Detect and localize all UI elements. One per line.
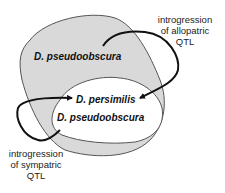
allopatric-annotation-line1: introgression (150, 14, 220, 25)
allopatric-annotation: introgression of allopatric QTL (150, 14, 220, 47)
sympatric-pseudoobscura-label: D. pseudoobscura (57, 112, 144, 123)
sympatric-annotation: introgression of sympatric QTL (5, 148, 67, 181)
allopatric-annotation-line2: of allopatric (150, 25, 220, 36)
allopatric-annotation-line3: QTL (150, 36, 220, 47)
allopatric-species-label: D. pseudoobscura (34, 51, 121, 62)
sympatric-persimilis-label: D. persimilis (76, 94, 135, 105)
sympatric-annotation-line1: introgression (5, 148, 67, 159)
sympatric-annotation-line3: QTL (5, 170, 67, 181)
sympatric-annotation-line2: of sympatric (5, 159, 67, 170)
